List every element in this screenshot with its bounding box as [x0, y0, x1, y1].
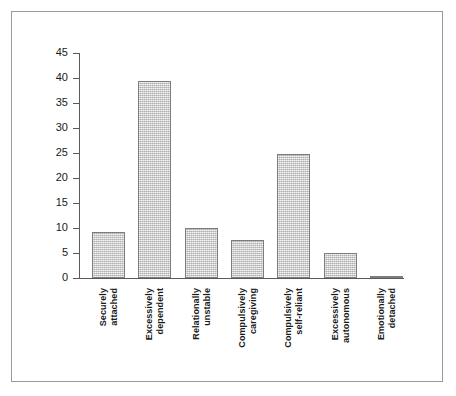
bar-4 — [231, 240, 264, 279]
y-tick-15: 15 — [12, 203, 79, 204]
category-label-7: Emotionallydetached — [370, 288, 403, 396]
y-tick-45: 45 — [12, 53, 79, 54]
y-tick-label: 30 — [14, 122, 68, 133]
bar-6 — [324, 253, 357, 279]
category-label-line: dependent — [155, 288, 166, 334]
category-label-4: Compulsivelycaregiving — [231, 288, 264, 396]
chart-figure: 051015202530354045 SecurelyattachedExces… — [11, 11, 443, 382]
y-tick-label: 45 — [14, 47, 68, 58]
bar-2 — [138, 81, 171, 278]
y-tick-label: 25 — [14, 147, 68, 158]
y-tick-30: 30 — [12, 128, 79, 129]
category-label-line: Excessively — [144, 288, 155, 340]
y-tick-label: 20 — [14, 172, 68, 183]
category-label-line: unstable — [201, 288, 212, 326]
y-tick-40: 40 — [12, 78, 79, 79]
category-label-line: Compulsively — [283, 288, 294, 348]
category-label-line: Compulsively — [236, 288, 247, 348]
bar-5 — [277, 154, 310, 278]
category-label-line: Securely — [98, 288, 109, 326]
y-tick-label: 10 — [14, 222, 68, 233]
y-axis-line — [79, 53, 80, 279]
category-label-line: attached — [109, 288, 120, 326]
y-tick-label: 35 — [14, 97, 68, 108]
y-tick-label: 0 — [14, 272, 68, 283]
category-label-6: Excessivelyautonomous — [324, 288, 357, 396]
y-tick-10: 10 — [12, 228, 79, 229]
y-tick-25: 25 — [12, 153, 79, 154]
category-label-line: Emotionally — [375, 288, 386, 340]
bar-1 — [92, 232, 125, 279]
y-tick-5: 5 — [12, 253, 79, 254]
bar-chart-plot: 051015202530354045 SecurelyattachedExces… — [12, 12, 444, 383]
category-label-2: Excessivelydependent — [138, 288, 171, 396]
y-tick-label: 15 — [14, 197, 68, 208]
category-label-1: Securelyattached — [92, 288, 125, 396]
category-label-line: detached — [386, 288, 397, 328]
category-label-line: caregiving — [247, 288, 258, 334]
y-tick-label: 5 — [14, 247, 68, 258]
category-label-line: autonomous — [340, 288, 351, 343]
category-label-5: Compulsivelyself-reliant — [277, 288, 310, 396]
bar-7 — [370, 276, 403, 278]
bar-3 — [185, 228, 218, 278]
y-tick-0: 0 — [12, 278, 79, 279]
y-tick-35: 35 — [12, 103, 79, 104]
y-tick-20: 20 — [12, 178, 79, 179]
y-tick-label: 40 — [14, 72, 68, 83]
category-label-line: Excessively — [329, 288, 340, 340]
category-label-line: Relationally — [190, 288, 201, 340]
category-label-line: self-reliant — [294, 288, 305, 335]
x-axis-baseline — [79, 278, 404, 279]
category-label-3: Relationallyunstable — [185, 288, 218, 396]
